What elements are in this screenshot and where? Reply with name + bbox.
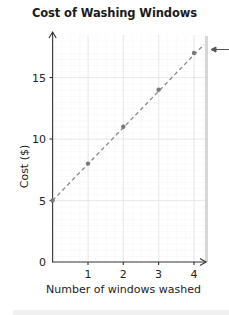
arrow-left-icon <box>211 47 229 52</box>
data-point <box>156 88 160 92</box>
grid <box>53 35 206 262</box>
x-tick-label: 4 <box>191 268 198 281</box>
data-point <box>86 161 90 165</box>
y-tick-label: 0 <box>39 256 46 269</box>
x-tick-label: 2 <box>120 268 127 281</box>
data-point <box>50 198 54 202</box>
y-tick-label: 15 <box>32 72 46 85</box>
x-axis-label: Number of windows washed <box>0 283 229 296</box>
x-tick-label: 3 <box>155 268 162 281</box>
data-point <box>121 125 125 129</box>
x-tick-label: 1 <box>85 268 92 281</box>
chart-plot-area: 0 5 10 15 1 2 3 4 <box>0 0 229 315</box>
y-axis-label: Cost ($) <box>18 137 31 197</box>
right-boundary-bar <box>205 36 208 262</box>
y-tick-label: 10 <box>32 133 46 146</box>
data-point <box>192 51 196 55</box>
y-tick-label: 5 <box>39 195 46 208</box>
bottom-bar <box>13 310 229 315</box>
